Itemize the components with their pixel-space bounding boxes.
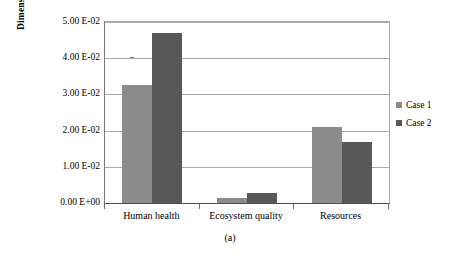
y-axis-tick-label: 0.00 E+00	[32, 197, 100, 207]
x-axis-separator-tick	[293, 203, 294, 209]
x-axis-separator-tick	[388, 203, 389, 209]
x-axis-separator-tick	[199, 203, 200, 209]
x-axis-category-label: Human health	[104, 210, 199, 221]
legend-swatch-icon	[396, 102, 402, 108]
legend-item: Case 1	[396, 96, 458, 114]
y-axis-tick-label: 1.00 E-02	[32, 161, 100, 171]
figure-caption: (a)	[0, 232, 460, 243]
x-axis-category-label: Resources	[293, 210, 388, 221]
bar-chart-figure: Dimensionless 5.00 E-024.00 E-023.00 E-0…	[0, 0, 460, 266]
bar	[342, 142, 372, 203]
bar	[312, 127, 342, 203]
bar	[152, 33, 182, 203]
bar	[247, 193, 277, 203]
gridline	[105, 22, 389, 23]
chart-legend: Case 1Case 2	[396, 96, 458, 132]
legend-swatch-icon	[396, 120, 402, 126]
y-axis-tick-label: 2.00 E-02	[32, 125, 100, 135]
plot-area	[104, 21, 390, 204]
y-axis-tick-label: 5.00 E-02	[32, 16, 100, 26]
gridline	[105, 58, 389, 59]
y-axis-tick-label: 4.00 E-02	[32, 52, 100, 62]
y-axis-tick-label: 3.00 E-02	[32, 88, 100, 98]
legend-item: Case 2	[396, 114, 458, 132]
legend-label: Case 2	[406, 118, 432, 128]
bar	[217, 198, 247, 203]
x-axis-separator-tick	[104, 203, 105, 209]
y-axis-tick-labels: 5.00 E-024.00 E-023.00 E-022.00 E-021.00…	[30, 0, 100, 183]
bar	[122, 85, 152, 203]
legend-label: Case 1	[406, 100, 432, 110]
y-axis-title-text: Dimensionless	[16, 0, 26, 30]
x-axis-category-label: Ecosystem quality	[199, 210, 294, 221]
